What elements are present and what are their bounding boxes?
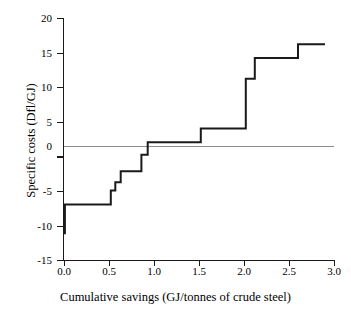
plot-area: 20 15 10 5 0 -5 -10 -15 0.0 0.5 1.0 1.5 … <box>0 0 351 315</box>
chart-figure: 20 15 10 5 0 -5 -10 -15 0.0 0.5 1.0 1.5 … <box>0 0 351 315</box>
x-axis-title: Cumulative savings (GJ/tonnes of crude s… <box>0 290 351 305</box>
y-axis-title: Specific costs (Dfl/GJ) <box>24 36 39 246</box>
step-curve <box>0 0 351 315</box>
